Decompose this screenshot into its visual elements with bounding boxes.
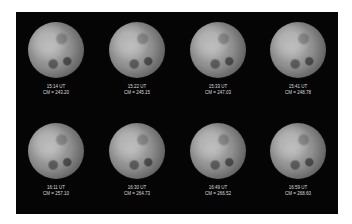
frame-caption: 16:30 UT CM = 264.73 bbox=[97, 185, 177, 197]
planet-image bbox=[109, 123, 165, 179]
planet-frame: 16:11 UT CM = 257.10 bbox=[16, 113, 96, 214]
planet-image bbox=[28, 22, 84, 78]
cm-label: CM = 248.78 bbox=[258, 90, 338, 96]
cm-label: CM = 247.03 bbox=[178, 90, 258, 96]
cm-label: CM = 245.15 bbox=[97, 90, 177, 96]
planet-image bbox=[190, 123, 246, 179]
cm-label: CM = 257.10 bbox=[16, 191, 96, 197]
planet-image bbox=[109, 22, 165, 78]
planet-frame: 16:49 UT CM = 266.52 bbox=[178, 113, 258, 214]
frame-caption: 16:59 UT CM = 268.60 bbox=[258, 185, 338, 197]
planet-image bbox=[28, 123, 84, 179]
planet-frame: 15:14 UT CM = 243.20 bbox=[16, 12, 96, 113]
planet-image bbox=[270, 22, 326, 78]
planet-image bbox=[270, 123, 326, 179]
cm-label: CM = 268.60 bbox=[258, 191, 338, 197]
frame-caption: 15:41 UT CM = 248.78 bbox=[258, 84, 338, 96]
planet-frame: 16:30 UT CM = 264.73 bbox=[97, 113, 177, 214]
image-grid: 15:14 UT CM = 243.20 15:22 UT CM = 245.1… bbox=[16, 12, 338, 214]
planet-frame: 15:22 UT CM = 245.15 bbox=[97, 12, 177, 113]
planet-frame: 15:41 UT CM = 248.78 bbox=[258, 12, 338, 113]
frame-caption: 15:33 UT CM = 247.03 bbox=[178, 84, 258, 96]
planet-image bbox=[190, 22, 246, 78]
planet-frame: 16:59 UT CM = 268.60 bbox=[258, 113, 338, 214]
frame-caption: 15:14 UT CM = 243.20 bbox=[16, 84, 96, 96]
cm-label: CM = 243.20 bbox=[16, 90, 96, 96]
cm-label: CM = 264.73 bbox=[97, 191, 177, 197]
planet-frame: 15:33 UT CM = 247.03 bbox=[178, 12, 258, 113]
cm-label: CM = 266.52 bbox=[178, 191, 258, 197]
frame-caption: 16:11 UT CM = 257.10 bbox=[16, 185, 96, 197]
frame-caption: 16:49 UT CM = 266.52 bbox=[178, 185, 258, 197]
frame-caption: 15:22 UT CM = 245.15 bbox=[97, 84, 177, 96]
